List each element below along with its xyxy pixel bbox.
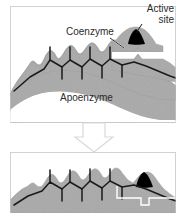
active-site-label-line2: site [158, 14, 174, 25]
top-panel: Active site Coenzyme Apoenzyme [10, 3, 176, 123]
diagram-canvas: Active site Coenzyme Apoenzyme [0, 0, 189, 213]
coenzyme-label: Coenzyme [66, 26, 114, 37]
apoenzyme-label: Apoenzyme [60, 92, 113, 103]
enzyme-diagram-figure: Active site Coenzyme Apoenzyme [0, 0, 189, 213]
bottom-panel [10, 153, 176, 214]
active-site-label-line1: Active [147, 3, 175, 14]
